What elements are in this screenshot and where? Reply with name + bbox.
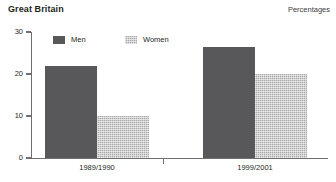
- x-axis-line: [31, 158, 328, 159]
- page-title: Great Britain: [8, 4, 64, 14]
- bar-women-1: [97, 116, 149, 158]
- units-label: Percentages: [288, 5, 330, 14]
- x-axis-group-separator: [163, 159, 164, 164]
- plot-area: Men Women 0102030 1989/19901999/2001: [0, 20, 336, 182]
- chart-page: Great Britain Percentages Men Women 0102…: [0, 0, 336, 182]
- bar-women-2: [255, 74, 307, 158]
- bar-men-2: [203, 47, 255, 158]
- chart-header: Great Britain Percentages: [8, 4, 330, 18]
- x-category-label: 1999/2001: [189, 163, 321, 172]
- bar-series-container: [0, 20, 336, 158]
- x-category-label: 1989/1990: [31, 163, 163, 172]
- bar-men-1: [45, 66, 97, 158]
